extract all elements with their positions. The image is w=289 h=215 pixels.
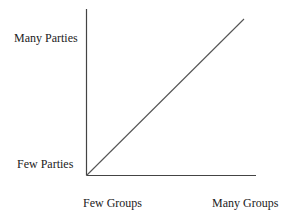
trend-line <box>87 19 244 175</box>
y-top-label: Many Parties <box>14 31 78 45</box>
x-left-label: Few Groups <box>83 196 142 210</box>
y-bottom-label: Few Parties <box>17 157 73 171</box>
x-right-label: Many Groups <box>212 196 278 210</box>
